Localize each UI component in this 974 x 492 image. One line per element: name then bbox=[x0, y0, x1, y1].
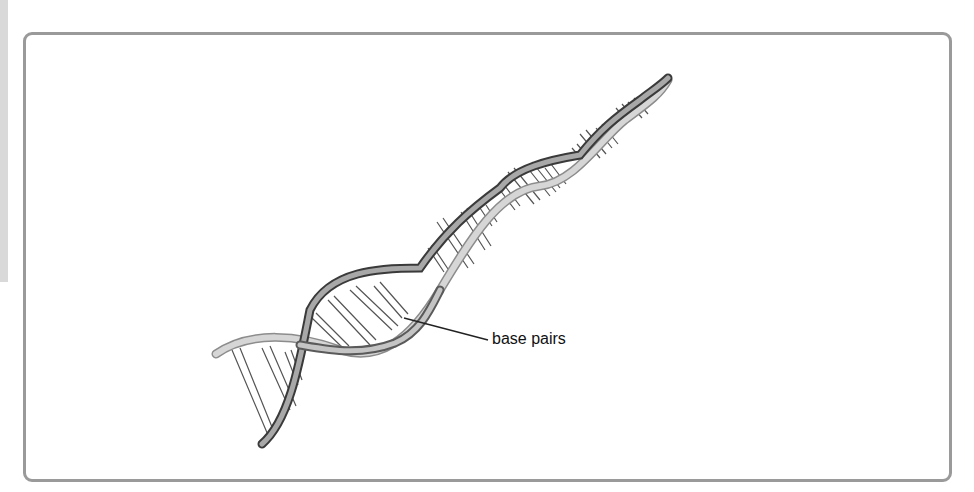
dna-helix-illustration bbox=[0, 0, 974, 492]
base-pairs-label: base pairs bbox=[492, 330, 566, 348]
